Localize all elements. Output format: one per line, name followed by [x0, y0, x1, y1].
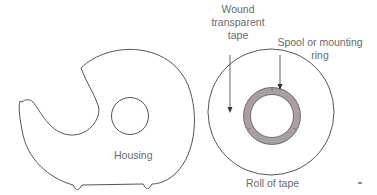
wound-tape-label: Wound transparent tape — [205, 3, 271, 42]
housing-hub-hole — [112, 98, 149, 135]
wound-tape-label-line: tape — [205, 29, 271, 42]
spool-label-line: ring — [265, 49, 375, 62]
roll-outer-circle — [208, 49, 334, 175]
housing-label: Housing — [114, 149, 153, 162]
roll-label: Roll of tape — [246, 177, 299, 190]
spool-label: Spool or mounting ring — [265, 36, 375, 62]
corner-mark — [358, 182, 362, 184]
tape-dispenser-diagram — [0, 0, 377, 195]
wound-tape-label-line: transparent — [205, 16, 271, 29]
housing-outline — [19, 49, 194, 189]
wound-tape-label-line: Wound — [205, 3, 271, 16]
spool-label-line: Spool or mounting — [265, 36, 375, 49]
